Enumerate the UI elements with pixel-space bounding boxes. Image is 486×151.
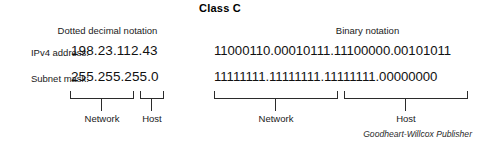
figure-title: Class C [0, 2, 440, 14]
decimal-network-bracket [70, 91, 134, 99]
publisher-credit: Goodheart-Willcox Publisher [260, 129, 472, 139]
subnet-mask-binary-value: 11111111.11111111.11111111.00000000 [214, 69, 437, 84]
ipv4-address-decimal-value: 198.23.112.43 [71, 43, 158, 58]
binary-host-label: Host [366, 113, 446, 124]
column-heading-binary: Binary notation [250, 25, 485, 36]
decimal-host-bracket [140, 91, 164, 99]
class-c-subnetting-figure: Class C Dotted decimal notation Binary n… [0, 0, 486, 151]
ipv4-address-binary-value: 11000110.00010111.11100000.00101011 [214, 43, 451, 58]
binary-network-label: Network [236, 113, 316, 124]
column-heading-dotted-decimal: Dotted decimal notation [20, 25, 195, 36]
binary-host-leader-line [405, 99, 406, 111]
decimal-network-leader-line [101, 99, 102, 111]
binary-network-bracket [214, 91, 338, 99]
binary-network-leader-line [275, 99, 276, 111]
decimal-host-label: Host [122, 113, 182, 124]
binary-host-bracket [344, 91, 468, 99]
subnet-mask-decimal-value: 255.255.255.0 [71, 69, 159, 84]
decimal-host-leader-line [151, 99, 152, 111]
